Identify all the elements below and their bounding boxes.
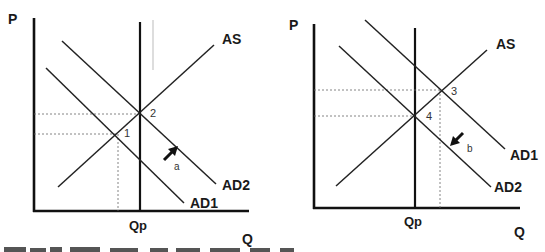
right-ad2-label: AD2 [494, 179, 522, 195]
right-shift-arrow-icon [450, 133, 463, 146]
left-point-1-label: 1 [124, 127, 130, 139]
right-ad1-label: AD1 [510, 147, 538, 163]
right-shift-arrow-label: b [467, 143, 473, 154]
clipped-caption [4, 247, 294, 252]
left-qp-label: Qp [129, 218, 147, 233]
right-point-4-label: 4 [426, 110, 432, 122]
left-shift-arrow-label: a [174, 161, 180, 172]
left-ad2-label: AD2 [222, 177, 250, 193]
left-price-axis-label: P [8, 11, 17, 27]
right-quantity-axis-label: Q [514, 224, 525, 240]
right-qp-label: Qp [404, 214, 422, 229]
right-as-curve [336, 50, 487, 186]
left-point-2-label: 2 [150, 107, 156, 119]
ad-as-diagrams: P Q Qp AS AD2 AD1 2 1 a P Q Qp [0, 0, 545, 252]
right-as-label: AS [496, 36, 515, 52]
right-price-axis-label: P [289, 17, 298, 33]
right-point-3-label: 3 [451, 85, 457, 97]
left-ad1-label: AD1 [190, 195, 218, 211]
left-quantity-axis-label: Q [242, 231, 253, 247]
right-ad1-curve [365, 20, 505, 149]
right-diagram: P Q Qp AS AD1 AD2 3 4 b [289, 17, 538, 240]
left-as-label: AS [222, 31, 241, 47]
left-as-curve [58, 45, 214, 187]
left-shift-arrow-icon [164, 146, 178, 160]
left-diagram: P Q Qp AS AD2 AD1 2 1 a [8, 11, 253, 247]
